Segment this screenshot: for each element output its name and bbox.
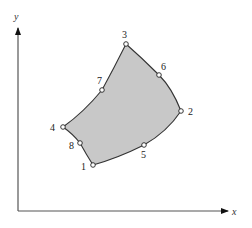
element-diagram: y x 1 2 3 4 5 6 7 8: [0, 0, 252, 228]
y-axis-label: y: [13, 11, 19, 22]
node-label-7: 7: [97, 75, 102, 86]
node-label-2: 2: [188, 106, 193, 117]
node-4: [61, 125, 66, 130]
node-5: [142, 143, 147, 148]
x-axis-label: x: [231, 206, 237, 217]
node-label-4: 4: [50, 122, 55, 133]
node-8: [78, 141, 83, 146]
node-label-5: 5: [141, 149, 146, 160]
node-1: [91, 163, 96, 168]
node-label-6: 6: [161, 61, 166, 72]
node-7: [100, 88, 105, 93]
node-3: [124, 42, 129, 47]
node-label-8: 8: [69, 140, 74, 151]
node-6: [157, 73, 162, 78]
node-2: [179, 109, 184, 114]
node-label-3: 3: [122, 29, 127, 40]
node-label-1: 1: [81, 161, 86, 172]
